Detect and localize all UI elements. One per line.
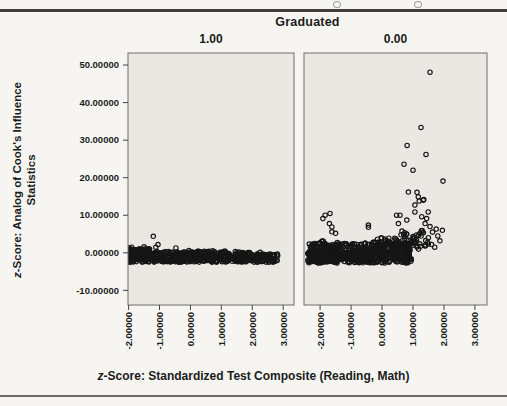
scatter-plot-canvas: 50.0000040.0000030.0000020.0000010.00000… [0,0,507,406]
y-tick-label: 30.00000 [79,134,119,145]
x-tick-label: 1.00000 [407,312,418,346]
x-tick-label: 0.00000 [185,312,196,346]
y-tick-label: 50.00000 [79,59,119,70]
x-tick-label: -2.00000 [315,312,326,350]
x-tick-label: 3.00000 [278,312,289,346]
x-tick-label: -1.00000 [154,312,165,350]
x-tick-label: 3.00000 [469,312,480,346]
x-tick-label: -1.00000 [345,312,356,350]
bottom-page-rule [0,395,507,397]
page: { "page": { "facet_title": "Graduated" }… [0,0,507,406]
x-tick-label: 0.00000 [376,312,387,346]
y-tick-label: 0.00000 [85,247,119,258]
y-tick-label: 10.00000 [79,209,119,220]
y-tick-label: 40.00000 [79,97,119,108]
panel-background [128,53,294,305]
panel-background [304,53,487,305]
y-tick-label: -10.00000 [76,285,119,296]
x-tick-label: 2.00000 [438,312,449,346]
x-tick-label: -2.00000 [123,312,134,350]
x-tick-label: 2.00000 [247,312,258,346]
x-tick-label: 1.00000 [216,312,227,346]
y-tick-label: 20.00000 [79,172,119,183]
